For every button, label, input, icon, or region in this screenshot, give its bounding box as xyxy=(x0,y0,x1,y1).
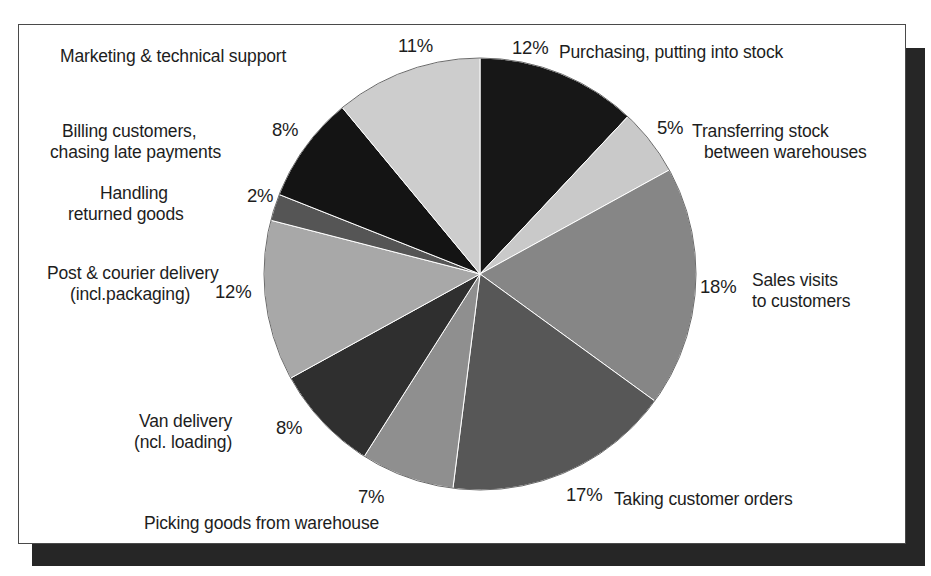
slice-label-sales-visits-line1: Sales visits xyxy=(752,270,838,290)
slice-value-billing: 8% xyxy=(272,120,298,140)
slice-label-post-courier-line2: (incl.packaging) xyxy=(70,284,190,304)
slice-label-handling-line2: returned goods xyxy=(68,204,184,224)
slice-label-post-courier-line1: Post & courier delivery xyxy=(47,263,219,283)
slice-label-van-delivery-line1: Van delivery xyxy=(139,411,232,431)
slice-label-van-delivery-line2: (ncl. loading) xyxy=(134,432,232,452)
pie-chart-figure: Marketing & technical support 11% 12% Pu… xyxy=(0,0,931,576)
slice-label-marketing-technical-support: Marketing & technical support xyxy=(60,46,286,66)
slice-value-taking-orders: 17% xyxy=(566,485,602,505)
slice-label-purchasing: Purchasing, putting into stock xyxy=(559,42,783,62)
slice-value-purchasing: 12% xyxy=(512,38,548,58)
slice-value-post-courier: 12% xyxy=(215,282,251,302)
slice-value-picking-goods: 7% xyxy=(358,487,384,507)
slice-label-handling-line1: Handling xyxy=(100,183,168,203)
pie-slice-group xyxy=(264,58,696,490)
slice-label-billing-line2: chasing late payments xyxy=(50,142,221,162)
slice-label-taking-orders: Taking customer orders xyxy=(614,489,793,509)
slice-value-sales-visits: 18% xyxy=(700,277,736,297)
slice-value-transferring: 5% xyxy=(657,118,683,138)
slice-label-picking-goods: Picking goods from warehouse xyxy=(144,513,379,533)
slice-label-transferring-line2: between warehouses xyxy=(704,142,867,162)
pie-svg xyxy=(262,56,698,492)
pie-chart xyxy=(262,56,698,492)
slice-label-transferring-line1: Transferring stock xyxy=(692,121,829,141)
slice-value-marketing-technical-support: 11% xyxy=(398,36,433,56)
slice-value-handling: 2% xyxy=(247,186,273,206)
slice-value-van-delivery: 8% xyxy=(276,418,302,438)
slice-label-sales-visits-line2: to customers xyxy=(752,291,850,311)
slice-label-billing-line1: Billing customers, xyxy=(62,121,196,141)
